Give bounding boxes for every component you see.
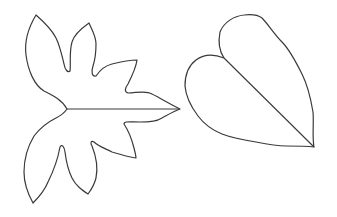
leaf-drawing-canvas: [0, 0, 337, 217]
heart-leaf: [185, 15, 314, 147]
lobed-leaf: [24, 15, 180, 203]
